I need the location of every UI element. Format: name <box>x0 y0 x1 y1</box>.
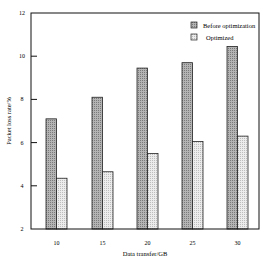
bar-before-optimization <box>182 63 193 229</box>
bar-before-optimization <box>46 119 57 229</box>
legend: Before optimization Optimized <box>191 22 256 41</box>
x-axis-title: Data transfer/GB <box>123 250 168 257</box>
x-tick-label: 25 <box>190 240 196 246</box>
legend-label-before: Before optimization <box>203 22 256 29</box>
bar-optimized <box>193 142 204 229</box>
x-tick-label: 15 <box>100 240 106 246</box>
y-tick-label: 8 <box>21 96 24 102</box>
y-tick-label: 12 <box>19 10 25 16</box>
bar-before-optimization <box>137 68 148 229</box>
bar-before-optimization <box>227 46 238 229</box>
x-tick-label: 20 <box>145 240 151 246</box>
y-tick-label: 2 <box>21 226 24 232</box>
bar-optimized <box>148 153 159 229</box>
legend-swatch-before <box>191 22 197 28</box>
bar-optimized <box>103 172 114 229</box>
x-tick-label: 10 <box>54 240 60 246</box>
bar-before-optimization <box>92 97 103 229</box>
y-tick-label: 4 <box>21 183 24 189</box>
bars-group <box>46 46 248 229</box>
legend-label-optimized: Optimized <box>206 34 234 41</box>
legend-swatch-optimized <box>191 34 197 40</box>
x-tick-label: 30 <box>235 240 241 246</box>
y-tick-label: 10 <box>19 53 25 59</box>
x-axis: 1015202530 <box>54 240 241 246</box>
y-axis: 24681012 <box>19 10 37 232</box>
bar-optimized <box>238 136 249 229</box>
bar-chart: 24681012 1015202530 Data transfer/GB Pac… <box>0 0 272 267</box>
bar-optimized <box>57 178 68 229</box>
y-tick-label: 6 <box>21 140 24 146</box>
y-axis-title: Packet loss rate/% <box>5 97 12 145</box>
